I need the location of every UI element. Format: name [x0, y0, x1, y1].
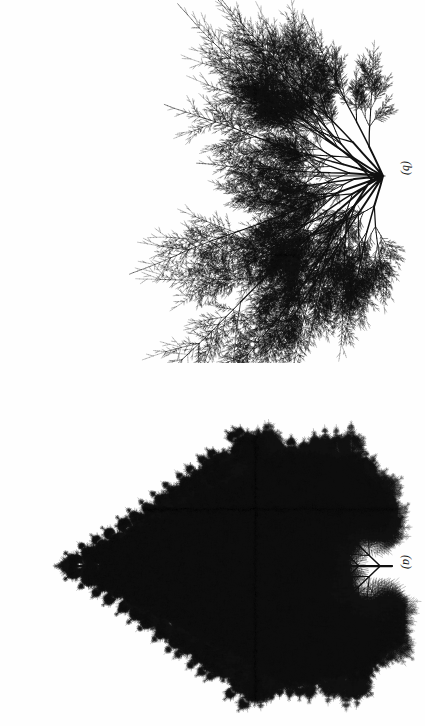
fractal-drawing-a: [0, 363, 425, 726]
panel-b-branching-fractal: [0, 0, 425, 363]
fractal-drawing-b: [0, 0, 425, 363]
panel-label-a: (a): [401, 551, 413, 573]
panel-a-fern-fractal: [0, 363, 425, 726]
figure-page: (b) (a): [0, 0, 425, 726]
panel-label-b: (b): [401, 157, 413, 179]
